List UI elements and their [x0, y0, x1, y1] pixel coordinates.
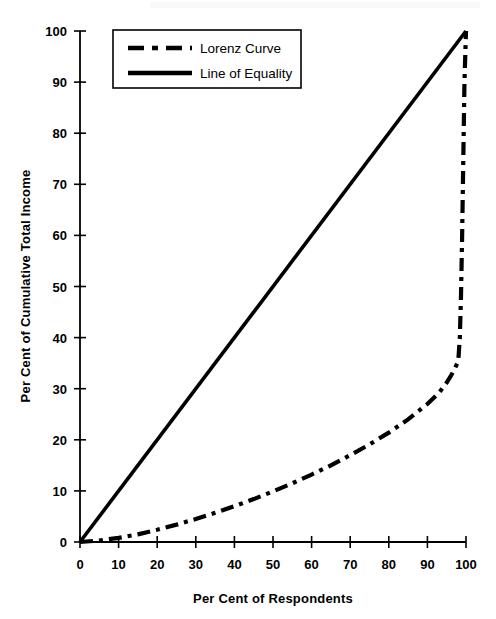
x-tick-label: 30 [189, 557, 203, 572]
y-tick-label: 50 [53, 280, 67, 295]
scan-artifact [150, 2, 480, 8]
y-tick-label: 10 [53, 484, 67, 499]
x-tick-label: 70 [343, 557, 357, 572]
series-line-of-equality [80, 31, 466, 542]
x-axis-tick-labels: 0102030405060708090100 [76, 557, 476, 572]
y-tick-label: 20 [53, 433, 67, 448]
x-tick-label: 0 [76, 557, 83, 572]
x-tick-label: 100 [455, 557, 477, 572]
y-axis-title: Per Cent of Cumulative Total Income [18, 170, 33, 403]
x-tick-label: 90 [420, 557, 434, 572]
x-tick-label: 10 [111, 557, 125, 572]
y-tick-label: 80 [53, 126, 67, 141]
chart-canvas: 0102030405060708090100 Per Cent of Cumul… [0, 0, 496, 619]
y-tick-label: 40 [53, 331, 67, 346]
x-tick-label: 50 [266, 557, 280, 572]
y-tick-label: 60 [53, 228, 67, 243]
x-axis: 0102030405060708090100 Per Cent of Respo… [76, 536, 476, 606]
x-tick-label: 80 [382, 557, 396, 572]
x-tick-label: 20 [150, 557, 164, 572]
lorenz-curve-chart: 0102030405060708090100 Per Cent of Cumul… [0, 0, 496, 619]
legend-label-lorenz-curve: Lorenz Curve [200, 41, 281, 56]
y-tick-label: 100 [45, 24, 67, 39]
y-axis-tick-labels: 0102030405060708090100 [45, 24, 67, 550]
plot-area [80, 31, 466, 542]
y-tick-label: 30 [53, 382, 67, 397]
y-tick-label: 70 [53, 177, 67, 192]
y-tick-label: 0 [60, 535, 67, 550]
legend-label-line-of-equality: Line of Equality [200, 66, 293, 81]
y-axis: 0102030405060708090100 Per Cent of Cumul… [18, 24, 86, 550]
y-tick-label: 90 [53, 75, 67, 90]
legend: Lorenz Curve Line of Equality [113, 30, 301, 88]
x-tick-label: 60 [304, 557, 318, 572]
x-tick-label: 40 [227, 557, 241, 572]
x-axis-title: Per Cent of Respondents [193, 591, 353, 606]
